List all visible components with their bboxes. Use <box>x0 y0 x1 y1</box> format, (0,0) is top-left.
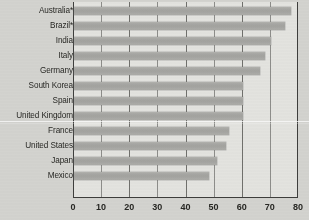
bar-south-korea[interactable] <box>74 82 243 90</box>
bar-united-states[interactable] <box>74 142 226 150</box>
bar-fill <box>74 37 271 45</box>
category-label-germany: Germany <box>0 67 73 75</box>
bar-australia[interactable] <box>74 7 291 15</box>
bar-japan[interactable] <box>74 157 217 165</box>
bar-united-kingdom[interactable] <box>74 112 243 120</box>
x-tick-20: 20 <box>114 202 144 212</box>
bar-fill <box>74 172 209 180</box>
bar-spain[interactable] <box>74 97 243 105</box>
x-tick-30: 30 <box>142 202 172 212</box>
x-tick-40: 40 <box>171 202 201 212</box>
x-tick-10: 10 <box>86 202 116 212</box>
category-label-united-states: United States <box>0 142 73 150</box>
bar-fill <box>74 67 260 75</box>
category-label-australia: Australia* <box>0 7 73 15</box>
bars-container <box>73 2 298 198</box>
x-tick-60: 60 <box>227 202 257 212</box>
bar-fill <box>74 142 226 150</box>
category-label-united-kingdom: United Kingdom <box>0 112 73 120</box>
x-tick-50: 50 <box>199 202 229 212</box>
x-tick-70: 70 <box>255 202 285 212</box>
bar-fill <box>74 22 285 30</box>
bar-fill <box>74 97 243 105</box>
category-label-south-korea: South Korea <box>0 82 73 90</box>
x-axis-line <box>73 197 298 198</box>
bar-fill <box>74 157 217 165</box>
bar-india[interactable] <box>74 37 271 45</box>
bar-fill <box>74 112 243 120</box>
x-tick-0: 0 <box>58 202 88 212</box>
bar-mexico[interactable] <box>74 172 209 180</box>
category-label-japan: Japan <box>0 157 73 165</box>
bar-fill <box>74 127 229 135</box>
chart-screenshot: Australia*Brazil*IndiaItalyGermanySouth … <box>0 0 309 220</box>
category-label-france: France <box>0 127 73 135</box>
bar-fill <box>74 52 265 60</box>
category-label-mexico: Mexico <box>0 172 73 180</box>
category-label-spain: Spain <box>0 97 73 105</box>
bar-france[interactable] <box>74 127 229 135</box>
category-label-italy: Italy <box>0 52 73 60</box>
bar-italy[interactable] <box>74 52 265 60</box>
bar-fill <box>74 7 291 15</box>
bar-fill <box>74 82 243 90</box>
category-label-brazil: Brazil* <box>0 22 73 30</box>
bar-germany[interactable] <box>74 67 260 75</box>
category-label-india: India <box>0 37 73 45</box>
x-tick-80: 80 <box>283 202 309 212</box>
bar-brazil[interactable] <box>74 22 285 30</box>
